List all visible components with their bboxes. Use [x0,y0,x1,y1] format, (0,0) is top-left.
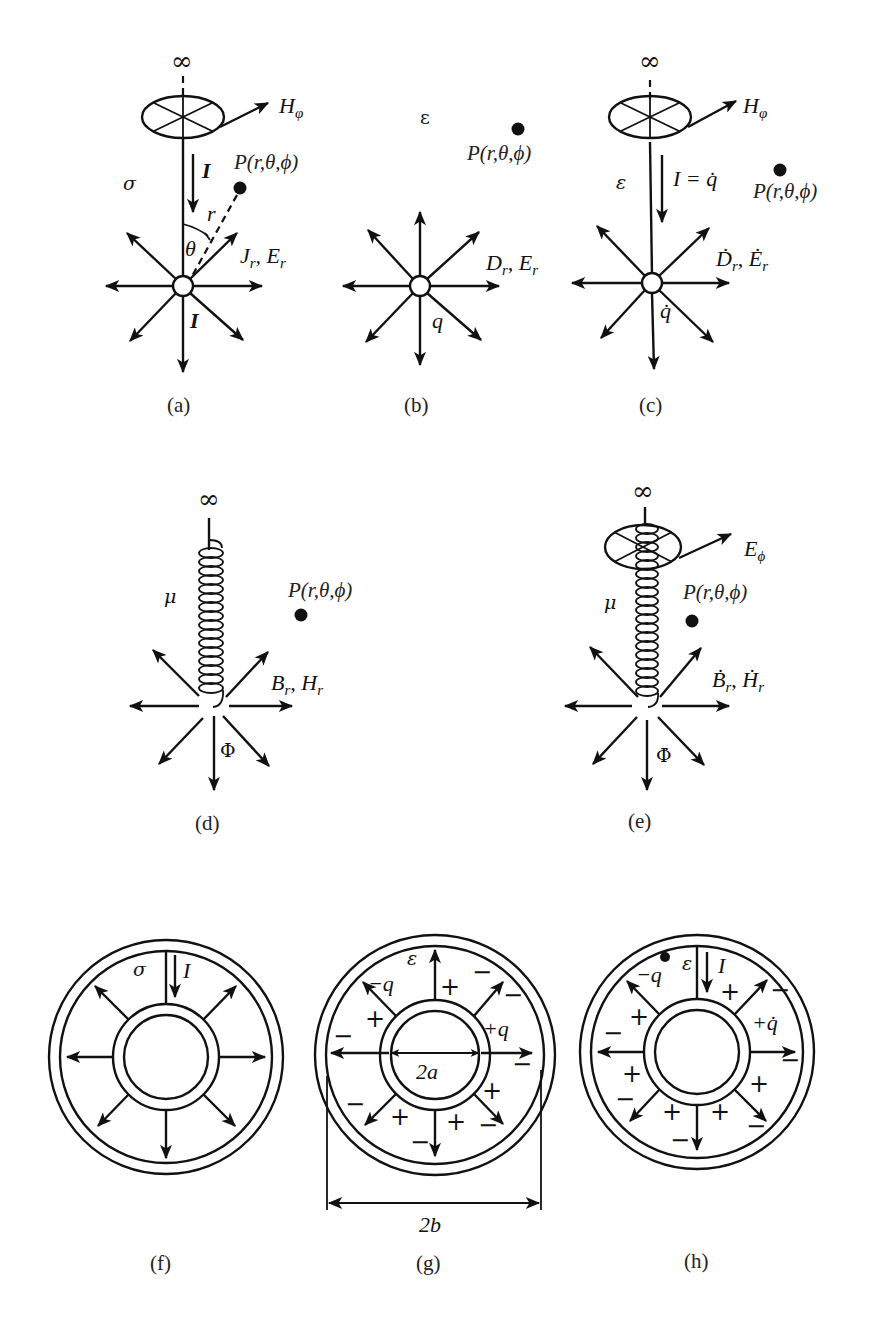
svg-text:−: − [770,976,790,1004]
radial-field-label: Ḃr, Ḣr [712,667,764,695]
flux-label: Φ [220,739,236,761]
svg-text:+: + [440,973,460,1001]
panel-g: 2a ε −q +q + + + + + − − − − − − − 2b (g… [315,935,555,1275]
outer-diameter-label: 2b [419,1212,441,1237]
caption-e: (e) [628,809,651,833]
h-phi-label: Hφ [742,93,767,121]
infinity-symbol: ∞ [632,476,654,506]
infinity-symbol: ∞ [639,46,661,76]
medium-label: ε [616,171,626,193]
medium-label: ε [682,952,692,974]
point-label: P(r,θ,ϕ) [752,179,817,203]
current-out-label: I [189,308,200,333]
svg-text:+: + [622,1060,642,1088]
medium-label: μ [164,585,176,607]
solenoid-coil-icon [199,540,223,707]
svg-text:−: − [410,1128,430,1156]
infinity-symbol: ∞ [171,46,193,76]
caption-d: (d) [195,811,220,835]
panel-c: ∞ Hφ I = q̇ ε P(r,θ,ϕ) q̇ Ḋr, Ėr (c) [572,46,817,417]
panel-d: ∞ μ P(r,θ,ϕ) [130,484,352,835]
svg-text:−: − [603,1019,623,1047]
point-p-icon [686,615,699,628]
current-label: I = q̇ [672,166,717,191]
medium-label: ε [420,106,430,128]
svg-text:−: − [472,958,492,986]
medium-label: μ [604,591,616,613]
e-phi-label: Eϕ [743,536,765,564]
svg-text:−: − [615,1085,635,1113]
point-label: P(r,θ,ϕ) [287,578,352,602]
medium-label: σ [123,172,137,194]
panel-h: I ε −q +q̇ + + + + + + − − − − − − (h) [580,935,814,1273]
svg-text:+: + [710,1098,730,1126]
angle-label: θ [185,236,196,261]
inner-conductor-inner-icon [124,1015,208,1099]
svg-text:−: − [345,1090,365,1118]
infinity-symbol: ∞ [198,484,220,514]
panel-e: ∞ Eϕ μ P [565,476,765,833]
solenoid-coil-icon [636,524,658,707]
point-charge-icon [642,273,662,293]
svg-text:+: + [446,1108,466,1136]
outer-charge-label: −q [368,971,394,996]
inner-conductor-inner-icon [655,1010,739,1094]
flux-rate-label: Φ̇ [656,744,672,766]
charge-rate-label: q̇ [660,298,671,323]
source-electrode-icon [173,276,193,296]
inner-charge-label: +q [483,1016,509,1041]
inner-charge-label: +q̇ [752,1010,778,1035]
svg-text:−: − [512,1050,532,1078]
caption-g: (g) [416,1251,441,1275]
svg-text:−: − [333,1022,353,1050]
radial-field-label: Jr, Er [240,243,286,271]
medium-label: ε [407,947,417,969]
radial-arrows [130,650,292,790]
svg-text:−: − [503,981,523,1009]
charge-label: q [432,308,443,333]
panel-f: I σ (f) [49,940,283,1275]
radial-field-label: Dr, Er [485,250,538,278]
panel-b: ε P(r,θ,ϕ) q Dr, Er (b) [343,106,538,417]
svg-text:+: + [390,1103,410,1131]
svg-text:−: − [670,1126,690,1154]
svg-text:+: + [629,1003,649,1031]
svg-text:+: + [720,978,740,1006]
svg-text:+: + [482,1077,502,1105]
svg-text:−: − [478,1111,498,1139]
figure-canvas: ∞ Hφ I σ P(r,θ,ϕ) r θ Jr, Er I (a) [0,0,877,1341]
radius-label: r [207,201,216,226]
radial-field-label: Br, Hr [271,670,323,698]
svg-text:−: − [746,1112,766,1140]
inner-conductor-outer-icon [380,1000,490,1110]
point-p-icon [295,609,308,622]
radial-field-label: Ḋr, Ėr [715,246,768,274]
point-charge-icon [410,276,430,296]
current-label: I [201,158,212,183]
caption-c: (c) [639,393,662,417]
point-label: P(r,θ,ϕ) [466,141,531,165]
caption-b: (b) [404,393,429,417]
point-p-icon [512,123,525,136]
point-label: P(r,θ,ϕ) [233,150,298,174]
radial-arrows [67,986,265,1158]
caption-h: (h) [684,1249,709,1273]
medium-label: σ [133,958,147,980]
h-phi-label: Hφ [278,93,303,121]
current-label: I [182,958,192,983]
svg-text:+: + [749,1070,769,1098]
caption-a: (a) [167,393,190,417]
svg-text:−: − [780,1046,800,1074]
point-p-icon [234,182,247,195]
inner-diameter-label: 2a [416,1059,438,1084]
panel-a: ∞ Hφ I σ P(r,θ,ϕ) r θ Jr, Er I (a) [106,46,303,417]
outer-charge-label: −q [636,962,662,987]
current-label: I [717,953,727,978]
point-p-icon [774,164,787,177]
charge-dot-icon [660,952,670,962]
point-label: P(r,θ,ϕ) [682,580,747,604]
svg-text:+: + [365,1005,385,1033]
inner-conductor-inner-icon [391,1011,479,1099]
charge-signs: + + + + + − − − − − − − [333,958,532,1156]
svg-text:+: + [662,1098,682,1126]
